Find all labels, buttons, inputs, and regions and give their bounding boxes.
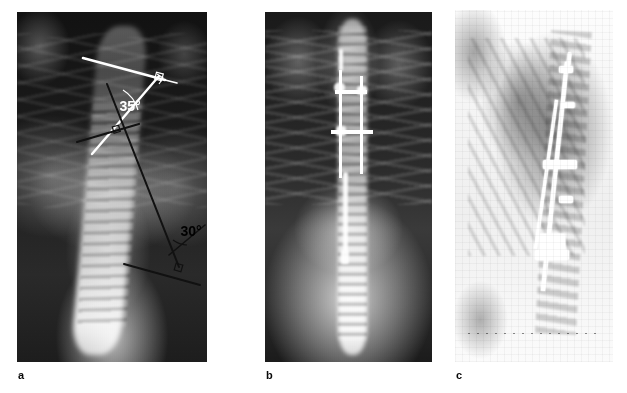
lower-perpendicular-line <box>107 84 179 267</box>
cobb-angle-overlay: 35° 30° <box>17 12 207 362</box>
pedicle-hook-upper-right-b <box>357 86 367 95</box>
xray-image-c <box>455 10 613 362</box>
distal-anchor-b <box>341 250 349 264</box>
panel-label-b: b <box>266 370 273 381</box>
rod-tip-b <box>339 49 343 71</box>
postoperative-ap-spine-radiograph <box>265 12 432 362</box>
scale-dot-line-c <box>468 333 601 334</box>
upper-endplate-tangent-line <box>83 58 165 80</box>
lower-endplate-tangent-line <box>124 264 200 285</box>
upper-cobb-angle-label: 35° <box>119 98 140 114</box>
preoperative-ap-spine-radiograph: 35° 30° <box>17 12 207 362</box>
lower-cobb-angle-label: 30° <box>180 223 201 239</box>
upper-endplate-line-group <box>83 58 177 83</box>
panel-label-c: c <box>456 370 462 381</box>
xray-image-b <box>265 12 432 362</box>
upper-perpendicular-line <box>92 76 159 154</box>
radiograph-figure: 35° 30° a <box>0 0 627 393</box>
postoperative-lateral-spine-radiograph <box>455 10 613 362</box>
upper-endplate-tangent-extension <box>165 80 177 83</box>
distal-anchor-c <box>535 250 569 260</box>
cross-connector-mid-c <box>543 160 577 169</box>
panel-label-a: a <box>18 370 24 381</box>
hook-lower-mid-c <box>559 196 573 203</box>
distal-rod-segment-b <box>343 172 348 252</box>
middle-right-angle-marker <box>112 125 120 133</box>
pedicle-hook-lower-b <box>336 126 346 136</box>
pedicle-hook-upper-left-b <box>334 82 345 93</box>
hook-upper-mid-c <box>563 102 575 108</box>
hook-upper-c <box>559 66 573 73</box>
